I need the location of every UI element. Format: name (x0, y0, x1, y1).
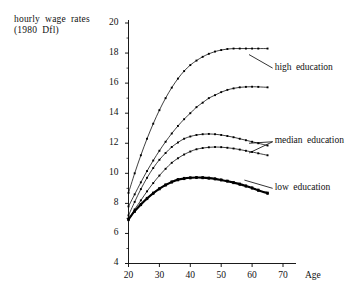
leader-lines (244, 55, 272, 189)
series-3 (128, 133, 269, 216)
series-4 (128, 146, 269, 219)
plot-area (0, 0, 359, 295)
wage-age-profile-chart: hourly wage rates (1980 Dfl) Age 4681012… (0, 0, 359, 295)
axes (125, 20, 296, 267)
series-6 (127, 177, 268, 221)
curve-layer (127, 48, 268, 222)
series-1 (128, 48, 269, 194)
